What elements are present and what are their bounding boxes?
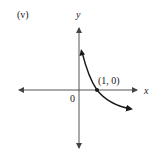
origin-label: 0 [70,93,75,104]
point-label: (1, 0) [98,75,120,87]
log-graph-diagram: (v) x y 0 (1, 0) [0,0,153,151]
x-axis-label: x [143,85,149,96]
panel-label: (v) [17,9,29,21]
y-axis-label: y [75,9,81,20]
point-marker [95,88,99,92]
curve-start-arrow-icon [80,49,86,56]
